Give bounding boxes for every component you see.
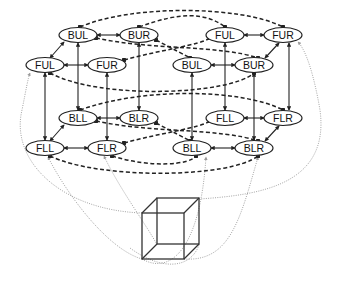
node-right-blr: BLR: [235, 141, 273, 156]
right-cube-edges: [192, 35, 289, 148]
left-cube-edges: [45, 35, 139, 148]
dashed-bur-bul: [156, 40, 190, 58]
node-left-bul: BUL: [59, 28, 97, 43]
node-label: FUL: [35, 59, 55, 71]
node-label: FLL: [216, 112, 234, 124]
node-left-bll: BLL: [59, 111, 97, 126]
node-label: BUL: [68, 29, 89, 41]
node-left-fur: FUR: [88, 58, 126, 73]
node-label: BUL: [182, 59, 203, 71]
node-label: BUR: [128, 29, 151, 41]
node-left-ful: FUL: [26, 58, 64, 73]
node-label: FLR: [97, 142, 117, 154]
dashed-fll-blr: [50, 156, 258, 173]
node-left-fll: FLL: [26, 141, 64, 156]
node-label: BLR: [129, 112, 150, 124]
dashed-ful-bur: [50, 73, 254, 91]
node-right-bul: BUL: [173, 58, 211, 73]
node-label: FLL: [36, 142, 54, 154]
node-right-bll: BLL: [173, 141, 211, 156]
dashed-blr-bll: [156, 123, 190, 141]
node-right-ful: FUL: [206, 28, 244, 43]
dotted-links: [20, 42, 321, 264]
dashed-top-inner: [139, 16, 225, 27]
dashed-mid-outer: [80, 94, 283, 111]
node-right-fur: FUR: [264, 28, 302, 43]
node-label: FUL: [215, 29, 235, 41]
dashed-top-outer: [80, 11, 283, 28]
node-label: FUR: [96, 59, 118, 71]
node-right-bur: BUR: [235, 58, 273, 73]
node-right-fll: FLL: [206, 111, 244, 126]
node-label: BLL: [183, 142, 202, 154]
necker-cube-diagram: BUL BUR FUL FUR BLL BLR FLL FLR: [0, 0, 339, 288]
node-left-flr: FLR: [88, 141, 126, 156]
node-label: FLR: [273, 112, 293, 124]
node-label: BUR: [243, 59, 266, 71]
node-right-flr: FLR: [264, 111, 302, 126]
link-to-left-flr: [104, 156, 157, 245]
node-label: BLR: [244, 142, 265, 154]
left-cube-nodes: BUL BUR FUL FUR BLL BLR FLL FLR: [26, 28, 158, 156]
node-label: BLL: [69, 112, 88, 124]
dashed-flr-bll: [112, 156, 196, 164]
node-left-bur: BUR: [120, 28, 158, 43]
necker-cube-drawing: [142, 198, 199, 259]
node-label: FUR: [272, 29, 294, 41]
node-left-blr: BLR: [120, 111, 158, 126]
